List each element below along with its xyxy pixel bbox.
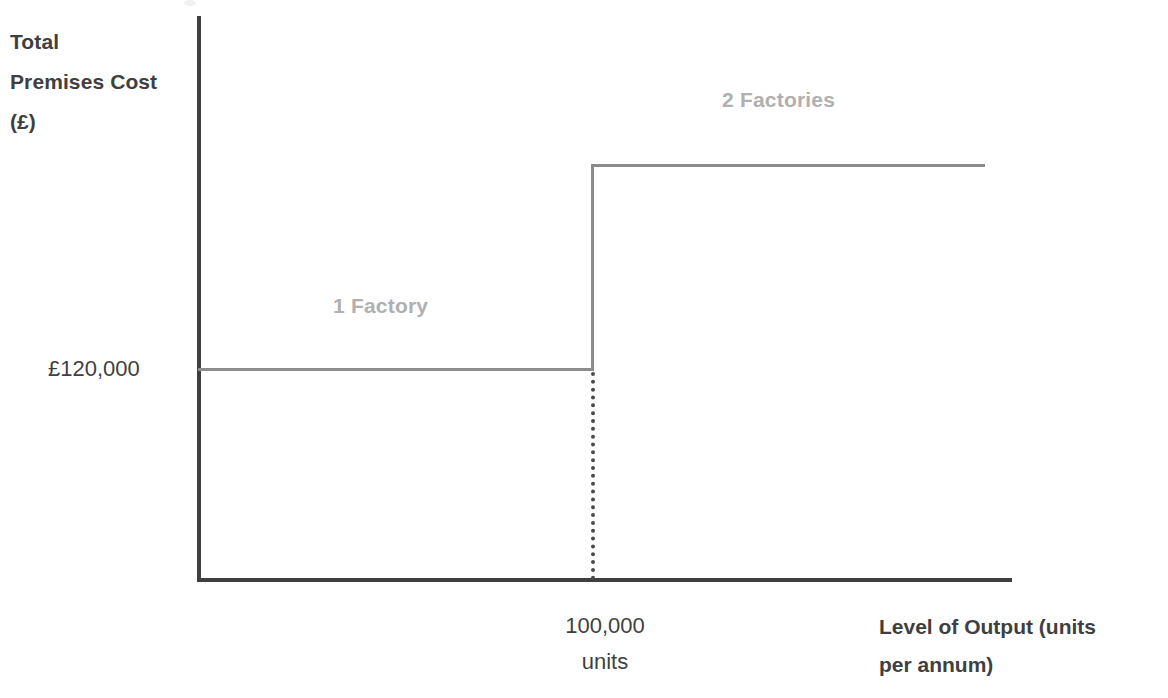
step-segment-two-factories [591,164,985,167]
step-segment-one-factory [198,368,594,371]
y-axis-title: Total Premises Cost (£) [10,22,190,142]
x-axis-tick-label: 100,000 units [520,608,690,680]
y-axis-line [197,16,201,582]
region-label-one-factory: 1 Factory [333,294,428,318]
region-label-two-factories: 2 Factories [722,88,835,112]
threshold-dotted-dropline [591,372,595,580]
x-axis-line [197,578,1012,582]
diagram-canvas: Total Premises Cost (£) £120,000 100,000… [0,0,1168,698]
y-axis-tick-label: £120,000 [48,355,178,383]
step-riser-at-threshold [591,164,594,371]
x-axis-title: Level of Output (units per annum) [879,608,1168,684]
scan-artifact [184,0,196,6]
